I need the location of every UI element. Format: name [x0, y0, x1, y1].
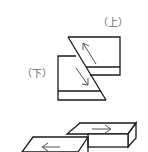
down-arrow-icon — [76, 68, 88, 85]
fault-diagram: （上） （下） — [0, 0, 148, 152]
left-box — [22, 137, 88, 152]
diagram-svg — [0, 0, 148, 152]
